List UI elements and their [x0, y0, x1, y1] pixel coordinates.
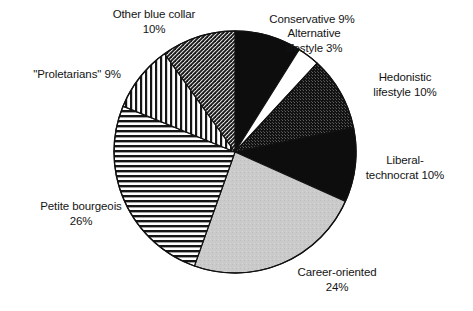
pie-chart-figure: Other blue collar 10% Conservative 9% Al… [0, 0, 473, 311]
pie-label-alternative-lifestyle: Alternative lifestyle 3% [250, 26, 378, 55]
pie-label-conservative: Conservative 9% [248, 12, 376, 27]
pie-label-liberal-technocrat: Liberal- technocrat 10% [344, 153, 466, 182]
pie-label-hedonistic-lifestyle: Hedonistic lifestyle 10% [344, 70, 466, 99]
pie-label-career-oriented: Career-oriented 24% [272, 265, 402, 294]
pie-slice-group [114, 31, 356, 273]
pie-label-proletarians: "Proletarians" 9% [14, 67, 140, 82]
pie-label-petite-bourgeois: Petite bourgeois 26% [14, 199, 148, 228]
pie-label-other-blue-collar: Other blue collar 10% [84, 7, 224, 36]
